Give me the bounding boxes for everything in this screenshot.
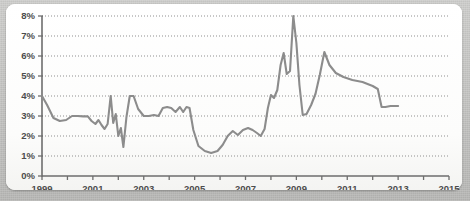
x-axis-label-2003: 2003	[133, 183, 154, 190]
line-chart-svg: 0%1%2%3%4%5%6%7%8% 199920012003200520072…	[6, 4, 462, 190]
x-axis-label-2015: 2015	[438, 183, 460, 190]
y-axis-label-5: 5%	[21, 70, 35, 81]
y-axis-label-8: 8%	[21, 10, 35, 21]
y-axis-label-3: 3%	[21, 110, 35, 121]
y-axis-label-2: 2%	[21, 130, 35, 141]
y-axis-label-0: 0%	[21, 170, 35, 181]
chart-plot-area: 0%1%2%3%4%5%6%7%8% 199920012003200520072…	[6, 4, 462, 190]
y-axis-label-7: 7%	[21, 30, 35, 41]
x-axis-label-1999: 1999	[31, 183, 52, 190]
x-axis-label-2009: 2009	[286, 183, 307, 190]
x-axis-label-2005: 2005	[184, 183, 206, 190]
gridline-group	[42, 16, 449, 156]
x-axis-label-2001: 2001	[82, 183, 104, 190]
x-axis-label-2011: 2011	[337, 183, 358, 190]
chart-screenshot: 0%1%2%3%4%5%6%7%8% 199920012003200520072…	[0, 0, 470, 201]
data-series-line	[42, 16, 398, 153]
x-axis-labels: 199920012003200520072009201120132015	[31, 183, 460, 190]
x-axis-label-2007: 2007	[235, 183, 256, 190]
y-axis-label-1: 1%	[21, 150, 35, 161]
y-axis-labels: 0%1%2%3%4%5%6%7%8%	[21, 10, 35, 181]
y-axis-label-4: 4%	[21, 90, 35, 101]
x-axis-label-2013: 2013	[388, 183, 409, 190]
chart-card-panel: 0%1%2%3%4%5%6%7%8% 199920012003200520072…	[6, 4, 462, 190]
y-axis-label-6: 6%	[21, 50, 35, 61]
